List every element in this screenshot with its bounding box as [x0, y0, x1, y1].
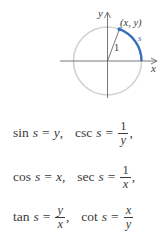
point-label: (x, y): [120, 17, 142, 29]
var-s: s: [35, 169, 40, 185]
equals: =: [106, 125, 114, 141]
radius-label: 1: [114, 42, 119, 53]
comma: ,: [132, 169, 135, 185]
fn-cot: cot: [81, 209, 98, 225]
fn-cos: cos: [13, 169, 31, 185]
equation-row-sin-csc: sin s = y , csc s = 1 y ,: [13, 118, 133, 148]
equals: =: [111, 209, 119, 225]
equation-row-tan-cot: tan s = y x , cot s = x y: [13, 202, 134, 232]
equals: =: [44, 169, 52, 185]
fraction-1-over-y: 1 y: [118, 120, 128, 146]
comma: ,: [62, 169, 65, 185]
numerator: y: [55, 204, 65, 218]
denominator: x: [55, 218, 65, 231]
var-s: s: [96, 125, 101, 141]
numerator: 1: [120, 164, 130, 178]
comma: ,: [66, 209, 69, 225]
y-axis-label: y: [97, 7, 103, 19]
comma: ,: [129, 125, 132, 141]
fraction-y-over-x: y x: [55, 204, 65, 230]
equals: =: [108, 169, 116, 185]
var-s: s: [34, 209, 39, 225]
denominator: y: [124, 218, 134, 231]
fraction-x-over-y: x y: [124, 204, 134, 230]
comma: ,: [60, 125, 63, 141]
fn-csc: csc: [75, 125, 92, 141]
equation-row-cos-sec: cos s = x , sec s = 1 x ,: [13, 162, 135, 192]
equals: =: [42, 125, 50, 141]
denominator: y: [119, 134, 129, 147]
var-s: s: [102, 209, 107, 225]
fraction-1-over-x: 1 x: [120, 164, 130, 190]
fn-sin: sin: [13, 125, 29, 141]
x-axis-label: x: [150, 62, 156, 74]
arc-label: s: [138, 33, 142, 43]
numerator: 1: [118, 120, 128, 134]
denominator: x: [121, 178, 131, 191]
fn-sec: sec: [77, 169, 94, 185]
equals: =: [43, 209, 51, 225]
numerator: x: [124, 204, 134, 218]
var-s: s: [99, 169, 104, 185]
unit-circle-figure: y x (x, y) 1 s: [0, 0, 162, 100]
var-s: s: [33, 125, 38, 141]
fn-tan: tan: [13, 209, 30, 225]
